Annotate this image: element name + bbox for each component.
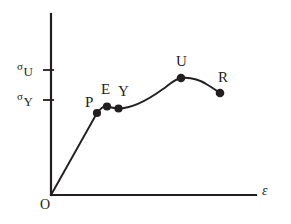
point-label-r: R: [218, 70, 228, 85]
sigma-subscript-y: Y: [23, 94, 32, 109]
strain-axis-label: ε: [262, 184, 268, 198]
point-marker-U: [177, 74, 186, 83]
origin-label: O: [40, 198, 50, 212]
sigma-subscript-u: U: [23, 64, 32, 79]
point-label-e: E: [101, 82, 110, 97]
point-label-u: U: [176, 54, 187, 69]
point-marker-P: [93, 109, 101, 117]
point-marker-Y: [114, 104, 122, 112]
y-tick-label-sigma-y: σY: [17, 91, 33, 108]
point-marker-R: [216, 89, 225, 98]
stress-strain-diagram: σU σY P E Y U R O ε: [0, 0, 291, 224]
point-label-y: Y: [118, 84, 129, 99]
point-label-p: P: [85, 95, 93, 110]
point-marker-E: [103, 102, 111, 110]
curve-elastic-segment: [51, 113, 97, 195]
y-tick-label-sigma-u: σU: [17, 61, 33, 78]
plot-canvas: [0, 0, 291, 224]
